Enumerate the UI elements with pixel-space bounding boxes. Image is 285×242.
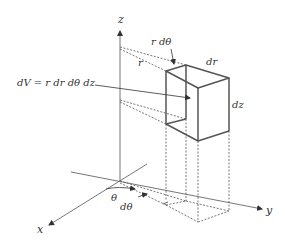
dv-pointer (95, 85, 190, 98)
dtheta-label: dθ (120, 201, 132, 212)
theta-label: θ (111, 192, 117, 203)
dr-label: dr (206, 56, 218, 67)
volume-element-box (166, 65, 229, 141)
cylindrical-volume-diagram: z r dθ r dr dV = r dr dθ dz dz θ dθ y x (0, 0, 285, 242)
x-axis (49, 164, 147, 225)
z-axis-label: z (117, 13, 124, 26)
r-label: r (138, 57, 144, 68)
dtheta-tick (163, 202, 168, 204)
y-axis-label: y (265, 204, 273, 217)
rdtheta-pointer (171, 49, 174, 64)
volume-formula-label: dV = r dr dθ dz (17, 77, 96, 88)
dz-label: dz (232, 99, 244, 110)
axes (49, 31, 262, 225)
x-axis-label: x (37, 223, 44, 236)
annotation-arrows (95, 49, 190, 204)
r-dtheta-label: r dθ (151, 36, 171, 47)
y-axis (71, 172, 262, 209)
